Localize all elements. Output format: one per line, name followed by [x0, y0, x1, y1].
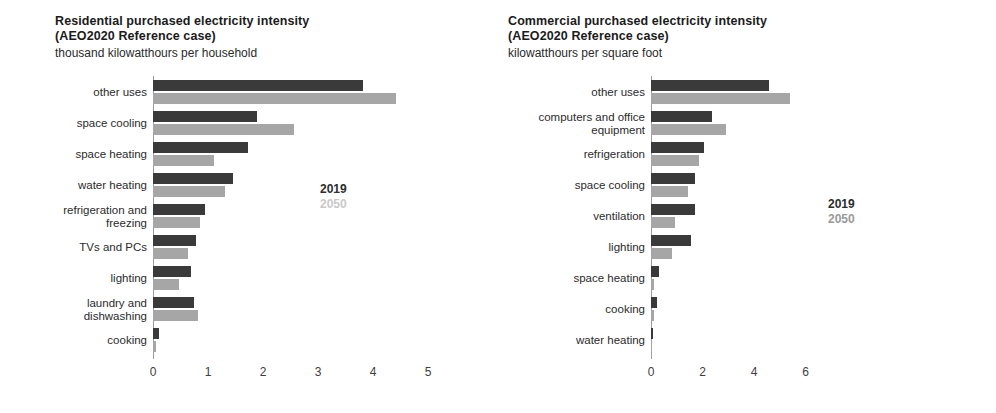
category-label: space heating: [7, 148, 147, 161]
x-tick-label: 1: [205, 365, 212, 379]
commercial-plot-area: other usescomputers and office equipment…: [498, 72, 978, 372]
bar-2050: [153, 124, 294, 135]
x-tick-label: 5: [425, 365, 432, 379]
commercial-chart-panel: Commercial purchased electricity intensi…: [498, 0, 996, 413]
residential-title-block: Residential purchased electricity intens…: [55, 14, 525, 61]
category-label: water heating: [7, 179, 147, 192]
bar-2019: [651, 142, 704, 153]
bar-2050: [153, 186, 225, 197]
bar-row: space cooling: [498, 171, 978, 202]
bar-2019: [651, 80, 769, 91]
bar-row: cooking: [498, 295, 978, 326]
bar-2050: [651, 310, 654, 321]
bar-2019: [153, 173, 233, 184]
category-label: space cooling: [505, 179, 645, 192]
commercial-title-line-1: Commercial purchased electricity intensi…: [508, 14, 978, 29]
bar-2050: [651, 124, 726, 135]
bar-2019: [651, 173, 695, 184]
residential-chart-panel: Residential purchased electricity intens…: [0, 0, 498, 413]
residential-subtitle: thousand kilowatthours per household: [55, 46, 525, 61]
x-tick-label: 4: [751, 365, 758, 379]
bar-2019: [153, 80, 363, 91]
bar-2019: [651, 235, 691, 246]
category-label: other uses: [505, 86, 645, 99]
bar-2050: [651, 248, 672, 259]
category-label: lighting: [7, 272, 147, 285]
bar-2050: [153, 155, 214, 166]
commercial-x-axis-ticks: 0246: [498, 365, 978, 385]
residential-title-line-1: Residential purchased electricity intens…: [55, 14, 525, 29]
bar-row: refrigeration: [498, 140, 978, 171]
category-label: refrigeration: [505, 148, 645, 161]
category-label: TVs and PCs: [7, 241, 147, 254]
bar-2019: [651, 266, 659, 277]
category-label: space cooling: [7, 117, 147, 130]
bar-2050: [651, 155, 699, 166]
bar-2050: [651, 93, 790, 104]
bar-2050: [651, 341, 652, 352]
bar-row: space heating: [498, 264, 978, 295]
commercial-legend-2050: 2050: [828, 212, 855, 227]
bar-2050: [153, 248, 188, 259]
category-label: other uses: [7, 86, 147, 99]
residential-plot-area: other usesspace coolingspace heatingwate…: [0, 72, 470, 372]
bar-2019: [153, 204, 205, 215]
bar-row: other uses: [0, 78, 470, 109]
x-tick-label: 0: [150, 365, 157, 379]
bar-2019: [651, 328, 653, 339]
bar-row: laundry and dishwashing: [0, 295, 470, 326]
bar-row: lighting: [498, 233, 978, 264]
category-label: laundry and dishwashing: [7, 297, 147, 323]
bar-row: water heating: [498, 326, 978, 357]
bar-2050: [651, 217, 675, 228]
bar-row: water heating: [0, 171, 470, 202]
bar-2019: [153, 328, 159, 339]
bar-2019: [651, 111, 712, 122]
bar-2050: [651, 186, 688, 197]
residential-legend: 2019 2050: [320, 182, 347, 212]
chart-page: Residential purchased electricity intens…: [0, 0, 996, 413]
category-label: ventilation: [505, 210, 645, 223]
category-label: cooking: [505, 303, 645, 316]
category-label: refrigeration and freezing: [7, 204, 147, 230]
bar-row: lighting: [0, 264, 470, 295]
residential-legend-2050: 2050: [320, 197, 347, 212]
category-label: computers and office equipment: [505, 111, 645, 137]
bar-2019: [651, 297, 657, 308]
bar-2050: [153, 217, 200, 228]
bar-row: refrigeration and freezing: [0, 202, 470, 233]
bar-row: other uses: [498, 78, 978, 109]
x-tick-label: 4: [370, 365, 377, 379]
bar-2019: [153, 266, 191, 277]
residential-x-axis-ticks: 012345: [0, 365, 470, 385]
x-tick-label: 2: [699, 365, 706, 379]
bar-2019: [153, 111, 257, 122]
bar-row: computers and office equipment: [498, 109, 978, 140]
residential-title-line-2: (AEO2020 Reference case): [55, 29, 525, 44]
bar-row: space heating: [0, 140, 470, 171]
commercial-legend-2019: 2019: [828, 197, 855, 212]
bar-2050: [651, 279, 654, 290]
x-tick-label: 2: [260, 365, 267, 379]
bar-2050: [153, 341, 156, 352]
commercial-title-line-2: (AEO2020 Reference case): [508, 29, 978, 44]
bar-row: cooking: [0, 326, 470, 357]
category-label: cooking: [7, 334, 147, 347]
residential-legend-2019: 2019: [320, 182, 347, 197]
bar-2019: [153, 297, 194, 308]
x-tick-label: 0: [648, 365, 655, 379]
bar-2019: [153, 142, 248, 153]
category-label: lighting: [505, 241, 645, 254]
x-tick-label: 6: [802, 365, 809, 379]
bar-row: ventilation: [498, 202, 978, 233]
bar-2019: [651, 204, 695, 215]
bar-row: space cooling: [0, 109, 470, 140]
category-label: water heating: [505, 334, 645, 347]
bar-row: TVs and PCs: [0, 233, 470, 264]
bar-2050: [153, 279, 179, 290]
x-tick-label: 3: [315, 365, 322, 379]
commercial-subtitle: kilowatthours per square foot: [508, 46, 978, 61]
bar-2050: [153, 93, 396, 104]
commercial-title-block: Commercial purchased electricity intensi…: [508, 14, 978, 61]
bar-2019: [153, 235, 196, 246]
